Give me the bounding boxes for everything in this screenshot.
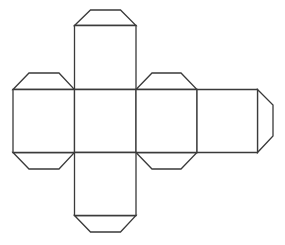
face-bottom <box>75 153 137 216</box>
face-far-right <box>197 90 258 153</box>
top-tab <box>75 10 137 26</box>
face-center <box>75 90 137 153</box>
right-top-tab <box>136 73 197 90</box>
cube-faces <box>13 26 258 216</box>
left-bottom-tab <box>13 153 75 170</box>
left-top-tab <box>13 73 75 90</box>
far-right-tab <box>258 90 274 153</box>
face-right <box>136 90 197 153</box>
right-bottom-tab <box>136 153 197 170</box>
face-top <box>75 26 137 90</box>
cube-net-diagram <box>0 0 285 245</box>
bottom-tab <box>75 216 137 233</box>
face-left <box>13 90 75 153</box>
